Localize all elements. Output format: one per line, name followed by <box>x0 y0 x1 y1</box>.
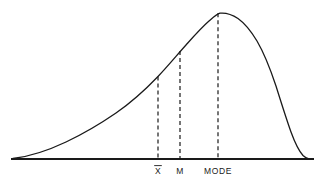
skewed-distribution-figure: X M MODE <box>0 0 324 182</box>
median-label: M <box>176 166 183 176</box>
distribution-diagram-svg: X M MODE <box>0 0 324 182</box>
mode-label: MODE <box>204 166 232 176</box>
mean-label: X <box>155 166 161 176</box>
distribution-curve <box>13 13 309 159</box>
